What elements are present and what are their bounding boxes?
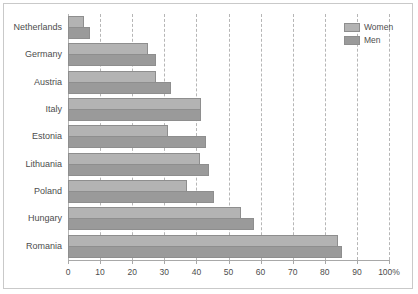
x-tick-label-30: 30 bbox=[160, 267, 169, 277]
x-tick-label-50: 50 bbox=[224, 267, 233, 277]
chart-container: NetherlandsGermanyAustriaItalyEstoniaLit… bbox=[0, 0, 418, 294]
bar-group-poland bbox=[68, 180, 389, 207]
bar-hungary-men[interactable] bbox=[68, 218, 254, 230]
x-tick-label-70: 70 bbox=[288, 267, 297, 277]
legend-item-women[interactable]: Women bbox=[344, 22, 406, 32]
y-axis-label-hungary: Hungary bbox=[0, 213, 62, 223]
x-tick-label-60: 60 bbox=[256, 267, 265, 277]
bar-austria-men[interactable] bbox=[68, 82, 171, 94]
y-axis-label-poland: Poland bbox=[0, 186, 62, 196]
bar-lithuania-men[interactable] bbox=[68, 164, 209, 176]
legend-label-men: Men bbox=[364, 35, 381, 45]
bar-group-estonia bbox=[68, 125, 389, 152]
y-axis-label-estonia: Estonia bbox=[0, 131, 62, 141]
y-axis-labels: NetherlandsGermanyAustriaItalyEstoniaLit… bbox=[0, 14, 62, 260]
x-tick-100 bbox=[389, 260, 390, 264]
x-tick-10 bbox=[100, 260, 101, 264]
legend-swatch-men-icon bbox=[344, 36, 360, 45]
legend-item-men[interactable]: Men bbox=[344, 35, 406, 45]
bar-group-hungary bbox=[68, 207, 389, 234]
bar-germany-men[interactable] bbox=[68, 54, 156, 66]
bar-group-netherlands bbox=[68, 16, 389, 43]
x-tick-label-20: 20 bbox=[127, 267, 136, 277]
gridline-100 bbox=[389, 14, 390, 260]
bar-poland-men[interactable] bbox=[68, 191, 214, 203]
bar-group-germany bbox=[68, 43, 389, 70]
legend-label-women: Women bbox=[364, 22, 393, 32]
y-axis-label-austria: Austria bbox=[0, 77, 62, 87]
x-tick-70 bbox=[293, 260, 294, 264]
x-tick-20 bbox=[132, 260, 133, 264]
x-tick-label-90: 90 bbox=[352, 267, 361, 277]
plot-area bbox=[68, 14, 389, 260]
legend-swatch-women-icon bbox=[344, 23, 360, 32]
x-tick-label-0: 0 bbox=[66, 267, 71, 277]
y-axis-label-romania: Romania bbox=[0, 241, 62, 251]
bar-group-austria bbox=[68, 71, 389, 98]
x-tick-60 bbox=[261, 260, 262, 264]
bar-netherlands-men[interactable] bbox=[68, 27, 90, 39]
y-axis-label-italy: Italy bbox=[0, 104, 62, 114]
y-axis-label-lithuania: Lithuania bbox=[0, 159, 62, 169]
bar-romania-men[interactable] bbox=[68, 246, 342, 258]
x-tick-label-40: 40 bbox=[192, 267, 201, 277]
bar-italy-men[interactable] bbox=[68, 109, 201, 121]
y-axis-label-netherlands: Netherlands bbox=[0, 22, 62, 32]
bar-group-lithuania bbox=[68, 153, 389, 180]
bar-estonia-men[interactable] bbox=[68, 136, 206, 148]
x-tick-label-100: 100% bbox=[378, 267, 400, 277]
x-tick-label-80: 80 bbox=[320, 267, 329, 277]
y-axis-label-germany: Germany bbox=[0, 49, 62, 59]
x-tick-label-10: 10 bbox=[95, 267, 104, 277]
x-tick-90 bbox=[357, 260, 358, 264]
bar-group-italy bbox=[68, 98, 389, 125]
bar-group-romania bbox=[68, 235, 389, 262]
x-tick-40 bbox=[196, 260, 197, 264]
x-tick-80 bbox=[325, 260, 326, 264]
x-tick-30 bbox=[164, 260, 165, 264]
x-tick-0 bbox=[68, 260, 69, 264]
x-tick-50 bbox=[229, 260, 230, 264]
chart-legend: Women Men bbox=[344, 22, 406, 48]
